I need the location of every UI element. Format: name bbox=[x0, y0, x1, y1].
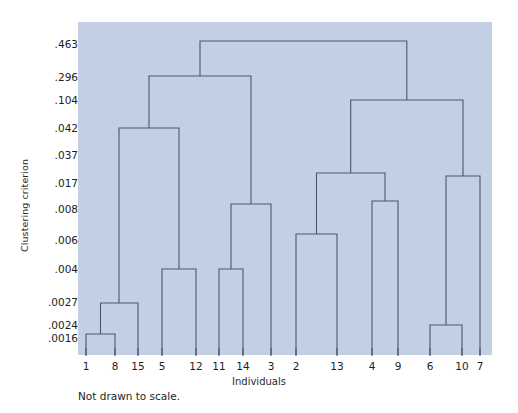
x-tick-label: 9 bbox=[395, 360, 402, 372]
x-tick-label: 2 bbox=[293, 360, 300, 372]
merge-link-m4 bbox=[162, 269, 196, 355]
x-tick-label: 6 bbox=[427, 360, 434, 372]
dendrogram-tree bbox=[0, 0, 518, 413]
merge-link-m2 bbox=[430, 325, 462, 355]
x-tick-label: 7 bbox=[477, 360, 484, 372]
x-tick-label: 4 bbox=[369, 360, 376, 372]
figure-footnote: Not drawn to scale. bbox=[78, 390, 180, 402]
x-tick-label: 1 bbox=[83, 360, 90, 372]
merge-link-m11 bbox=[119, 128, 179, 303]
merge-link-m3 bbox=[101, 303, 139, 355]
merge-link-m7 bbox=[231, 204, 271, 355]
x-tick-label: 14 bbox=[236, 360, 249, 372]
x-tick-label: 3 bbox=[268, 360, 275, 372]
x-tick-label: 15 bbox=[131, 360, 144, 372]
x-tick-label: 11 bbox=[212, 360, 225, 372]
merge-link-m8 bbox=[372, 201, 398, 355]
x-axis-tick-marks bbox=[86, 348, 480, 356]
merge-link-m12 bbox=[351, 100, 463, 176]
dendrogram-figure: Clustering criterion .463 .296 .104 .042… bbox=[0, 0, 518, 413]
x-tick-label: 13 bbox=[330, 360, 343, 372]
x-tick-label: 5 bbox=[159, 360, 166, 372]
x-tick-label: 10 bbox=[455, 360, 468, 372]
x-tick-label: 8 bbox=[112, 360, 119, 372]
merge-link-m13 bbox=[149, 76, 251, 204]
merge-link-m5 bbox=[219, 269, 243, 355]
dendrogram-links bbox=[86, 41, 480, 355]
x-tick-label: 12 bbox=[189, 360, 202, 372]
x-axis-title: Individuals bbox=[0, 376, 518, 387]
merge-link-m6 bbox=[296, 234, 337, 355]
merge-link-m14-root bbox=[200, 41, 407, 100]
merge-link-m9 bbox=[446, 176, 480, 355]
merge-link-m1 bbox=[86, 334, 115, 355]
merge-link-m10 bbox=[317, 173, 386, 234]
